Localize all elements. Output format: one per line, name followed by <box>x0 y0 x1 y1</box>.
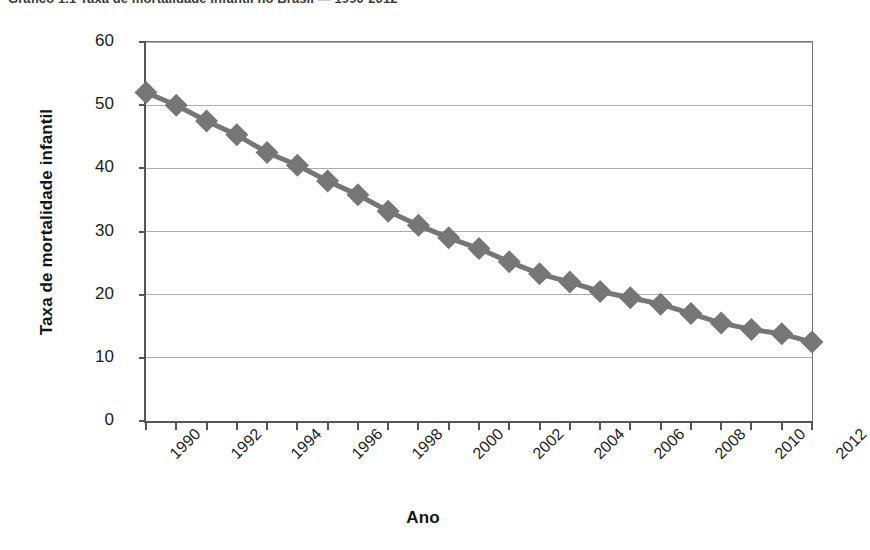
y-axis-tick-label: 40 <box>58 157 114 177</box>
data-point-marker <box>225 123 248 146</box>
data-point-marker <box>710 312 733 335</box>
plot-area <box>144 41 813 423</box>
x-axis-tick-label: 1992 <box>227 425 265 463</box>
data-point-marker <box>468 237 491 260</box>
x-axis-tick-label: 2010 <box>772 425 810 463</box>
y-axis-tick-label: 10 <box>58 347 114 367</box>
data-point-marker <box>801 331 824 354</box>
x-axis-title: Ano <box>0 508 846 528</box>
x-axis-tick-label: 1990 <box>166 425 204 463</box>
data-point-marker <box>498 250 521 273</box>
x-axis-tick-label: 1996 <box>348 425 386 463</box>
data-point-marker <box>437 226 460 249</box>
data-point-marker <box>256 141 279 164</box>
data-point-marker <box>346 183 369 206</box>
x-axis-tick-label: 1998 <box>409 425 447 463</box>
x-axis-tick-label: 2008 <box>711 425 749 463</box>
data-point-marker <box>619 286 642 309</box>
y-axis-tick-label: 30 <box>58 221 114 241</box>
y-axis-tick-labels: 0102030405060 <box>58 0 114 550</box>
data-point-marker <box>286 154 309 177</box>
data-point-marker <box>770 322 793 345</box>
data-point-marker <box>165 94 188 117</box>
x-axis-tick-labels: 1990199219941996199820002002200420062008… <box>144 425 844 515</box>
y-axis-title: Taxa de mortalidade infantil <box>37 57 57 387</box>
data-point-marker <box>649 293 672 316</box>
x-axis-tick-label: 2012 <box>832 425 870 463</box>
series-line <box>146 93 812 343</box>
data-point-marker <box>528 262 551 285</box>
data-point-marker <box>195 109 218 132</box>
y-axis-tick-label: 50 <box>58 94 114 114</box>
x-axis-tick-label: 2002 <box>530 425 568 463</box>
x-axis-tick-label: 1994 <box>288 425 326 463</box>
figure-caption: Gráfico 1.1 Taxa de mortalidade infantil… <box>0 0 846 9</box>
data-point-marker <box>316 169 339 192</box>
y-axis-tick-label: 0 <box>58 410 114 430</box>
x-axis-tick-label: 2006 <box>651 425 689 463</box>
data-point-marker <box>407 214 430 237</box>
data-point-marker <box>135 81 158 104</box>
data-point-marker <box>589 280 612 303</box>
data-point-marker <box>740 318 763 341</box>
data-series-layer <box>126 22 832 441</box>
data-point-marker <box>679 302 702 325</box>
y-axis-tick-label: 20 <box>58 284 114 304</box>
x-axis-tick-label: 2004 <box>590 425 628 463</box>
data-point-marker <box>558 271 581 294</box>
y-axis-tick-label: 60 <box>58 31 114 51</box>
data-point-marker <box>377 200 400 223</box>
x-axis-tick-label: 2000 <box>469 425 507 463</box>
